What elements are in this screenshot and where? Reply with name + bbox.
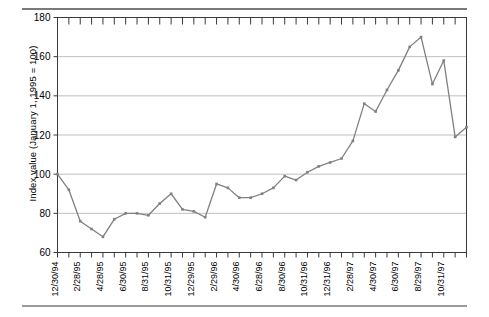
data-point-marker bbox=[136, 212, 139, 215]
x-axis-tick-label: 6/30/95 bbox=[118, 262, 128, 292]
y-axis-ticks-group: 6080100120140160180 bbox=[34, 12, 58, 258]
data-point-marker bbox=[386, 89, 389, 92]
x-axis-tick-label: 10/31/97 bbox=[436, 262, 446, 297]
data-point-marker bbox=[158, 202, 161, 205]
y-axis-tick-label: 160 bbox=[34, 51, 51, 62]
gridlines-group bbox=[58, 57, 467, 214]
x-axis-tick-label: 8/31/95 bbox=[140, 262, 150, 292]
data-point-marker bbox=[90, 228, 93, 231]
data-series-line bbox=[58, 37, 467, 237]
x-axis-tick-label: 12/30/94 bbox=[50, 262, 60, 297]
x-axis-tick-label: 12/29/95 bbox=[186, 262, 196, 297]
x-axis-tick-label: 2/29/96 bbox=[209, 262, 219, 292]
data-point-marker bbox=[295, 179, 298, 182]
data-point-marker bbox=[147, 214, 150, 217]
data-point-marker bbox=[170, 192, 173, 195]
data-point-marker bbox=[454, 136, 457, 139]
data-point-marker bbox=[352, 140, 355, 143]
x-axis-tick-label: 10/31/95 bbox=[163, 262, 173, 297]
data-point-marker bbox=[193, 210, 196, 213]
data-point-marker bbox=[318, 165, 321, 168]
chart-figure: Index value (January 1, 1995 = 100) 6080… bbox=[0, 0, 489, 317]
y-axis-tick-label: 180 bbox=[34, 12, 51, 23]
data-series-markers bbox=[56, 36, 468, 238]
data-point-marker bbox=[181, 208, 184, 211]
x-axis-tick-label: 8/30/96 bbox=[277, 262, 287, 292]
x-axis-tick-label: 6/28/96 bbox=[254, 262, 264, 292]
y-axis-tick-label: 100 bbox=[34, 169, 51, 180]
data-point-marker bbox=[420, 36, 423, 39]
x-axis-tick-label: 10/31/96 bbox=[299, 262, 309, 297]
data-point-marker bbox=[283, 175, 286, 178]
data-point-marker bbox=[56, 173, 59, 176]
data-point-marker bbox=[306, 171, 309, 174]
x-axis-top-ticks-group bbox=[58, 18, 467, 25]
y-axis-tick-label: 60 bbox=[39, 247, 51, 258]
data-point-marker bbox=[215, 183, 218, 186]
data-point-marker bbox=[68, 189, 71, 192]
x-axis-tick-label: 2/28/95 bbox=[72, 262, 82, 292]
data-point-marker bbox=[261, 192, 264, 195]
data-point-marker bbox=[340, 157, 343, 160]
data-point-marker bbox=[442, 59, 445, 62]
data-point-marker bbox=[431, 83, 434, 86]
data-point-marker bbox=[465, 126, 468, 129]
data-point-marker bbox=[227, 187, 230, 190]
x-axis-tick-label: 12/31/96 bbox=[322, 262, 332, 297]
y-axis-tick-label: 120 bbox=[34, 130, 51, 141]
x-axis-tick-label: 4/30/96 bbox=[231, 262, 241, 292]
x-axis-tick-label: 8/29/97 bbox=[413, 262, 423, 292]
data-point-marker bbox=[363, 102, 366, 105]
x-axis-tick-label: 4/30/97 bbox=[368, 262, 378, 292]
data-point-marker bbox=[79, 220, 82, 223]
data-point-marker bbox=[113, 218, 116, 221]
data-point-marker bbox=[329, 161, 332, 164]
data-point-marker bbox=[238, 196, 241, 199]
data-point-marker bbox=[204, 216, 207, 219]
data-point-marker bbox=[124, 212, 127, 215]
line-chart-plot: 6080100120140160180 12/30/942/28/954/28/… bbox=[0, 0, 489, 317]
x-axis-ticks-group bbox=[58, 253, 467, 258]
data-point-marker bbox=[272, 187, 275, 190]
data-point-marker bbox=[102, 236, 105, 239]
x-axis-tick-label: 4/28/95 bbox=[95, 262, 105, 292]
y-axis-tick-label: 140 bbox=[34, 90, 51, 101]
x-axis-labels-group: 12/30/942/28/954/28/956/30/958/31/9510/3… bbox=[50, 262, 446, 297]
y-axis-tick-label: 80 bbox=[39, 208, 51, 219]
x-axis-tick-label: 6/30/97 bbox=[390, 262, 400, 292]
data-point-marker bbox=[408, 46, 411, 49]
data-point-marker bbox=[374, 110, 377, 113]
x-axis-tick-label: 2/28/97 bbox=[345, 262, 355, 292]
data-point-marker bbox=[397, 69, 400, 72]
data-point-marker bbox=[249, 196, 252, 199]
